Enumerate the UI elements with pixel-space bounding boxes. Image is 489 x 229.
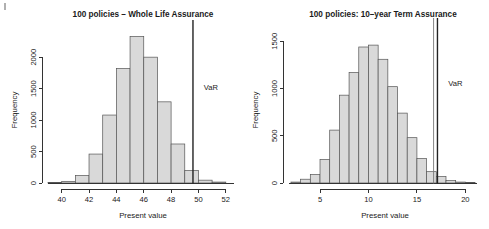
figure-container: 100 policies – Whole Life Assurance VaR … <box>0 0 489 229</box>
x-axis-title: Present value <box>361 211 409 220</box>
x-axis-tick-label: 10 <box>364 195 372 204</box>
histogram-bar <box>407 138 417 183</box>
term-assurance-svg: 100 policies: 10–year Term Assurance VaR… <box>245 0 489 229</box>
var-label: VaR <box>204 83 219 92</box>
histogram-bar <box>103 115 117 183</box>
plot-area-bars <box>48 36 234 183</box>
y-axis-tick-label: 2000 <box>29 49 38 66</box>
y-axis: 050010001500 <box>270 33 283 185</box>
histogram-bar <box>368 45 378 183</box>
x-axis-tick-label: 48 <box>167 195 175 204</box>
y-axis-title: Frequency <box>10 91 19 128</box>
x-axis: 40424446485052 <box>57 189 230 204</box>
y-axis-tick-label: 1500 <box>270 33 279 50</box>
x-axis-tick-label: 15 <box>413 195 421 204</box>
x-axis: 5101520 <box>318 189 470 204</box>
histogram-bar <box>378 59 388 183</box>
y-axis-title: Frequency <box>251 91 260 128</box>
y-axis-tick-label: 500 <box>29 145 38 158</box>
y-axis-tick-label: 500 <box>270 129 279 142</box>
histogram-bar <box>427 172 437 183</box>
x-axis-tick-label: 42 <box>85 195 93 204</box>
chart-panel-term-assurance: 100 policies: 10–year Term Assurance VaR… <box>245 0 489 229</box>
annotations: VaR <box>434 18 463 184</box>
y-axis-tick-label: 0 <box>270 181 279 185</box>
histogram-bar <box>89 154 103 183</box>
plot-area-bars <box>289 45 477 183</box>
chart-title: 100 policies – Whole Life Assurance <box>73 10 214 19</box>
histogram-bar <box>301 179 311 183</box>
annotations: VaR <box>193 20 219 184</box>
x-axis-tick-label: 52 <box>222 195 230 204</box>
histogram-bar <box>398 113 408 183</box>
histogram-bar <box>388 87 398 183</box>
y-axis-tick-label: 1500 <box>29 80 38 97</box>
histogram-bar <box>349 73 359 184</box>
histogram-bar <box>417 158 427 183</box>
y-axis: 0500100015002000 <box>29 49 42 185</box>
histogram-bar <box>310 175 320 184</box>
y-axis-tick-label: 1000 <box>270 80 279 97</box>
histogram-bar <box>157 102 171 183</box>
histogram-bar <box>330 130 340 183</box>
histogram-bar <box>320 159 330 183</box>
y-axis-tick-label: 0 <box>29 181 38 185</box>
histogram-bar <box>116 68 130 183</box>
x-axis-tick-label: 40 <box>57 195 65 204</box>
whole-life-svg: 100 policies – Whole Life Assurance VaR … <box>0 0 244 229</box>
var-label: VaR <box>448 79 463 88</box>
histogram-bar <box>339 95 349 183</box>
y-axis-tick-label: 1000 <box>29 112 38 129</box>
x-axis-title: Present value <box>119 211 167 220</box>
histogram-bar <box>144 57 158 183</box>
x-axis-tick-label: 20 <box>461 195 469 204</box>
histogram-bar <box>359 47 369 183</box>
histogram-bar <box>75 175 89 183</box>
chart-title: 100 policies: 10–year Term Assurance <box>309 10 457 19</box>
histogram-bar <box>130 36 144 183</box>
chart-panel-whole-life: 100 policies – Whole Life Assurance VaR … <box>0 0 244 229</box>
x-axis-tick-label: 44 <box>112 195 120 204</box>
x-axis-tick-label: 50 <box>194 195 202 204</box>
histogram-bar <box>185 170 199 183</box>
histogram-bar <box>171 144 185 183</box>
x-axis-tick-label: 5 <box>318 195 322 204</box>
x-axis-tick-label: 46 <box>140 195 148 204</box>
